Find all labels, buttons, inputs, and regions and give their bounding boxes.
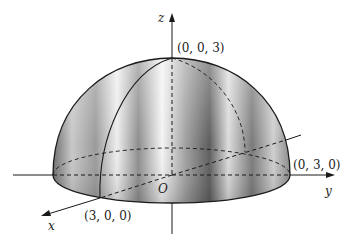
z-axis-label: z: [158, 12, 164, 24]
y-intercept-label: (0, 3, 0): [293, 159, 341, 171]
hemisphere-diagram: z (0, 0, 3) (0, 3, 0) y O (3, 0, 0) x: [0, 0, 348, 247]
y-arrow-icon: [326, 172, 335, 178]
diagram-canvas: [0, 0, 348, 247]
z-arrow-icon: [169, 13, 175, 22]
x-intercept-label: (3, 0, 0): [84, 210, 132, 222]
y-axis-label: y: [325, 185, 332, 197]
origin-label: O: [158, 183, 168, 195]
x-arrow-icon: [41, 210, 51, 216]
x-axis-label: x: [48, 220, 55, 232]
z-top-point-label: (0, 0, 3): [177, 42, 225, 54]
